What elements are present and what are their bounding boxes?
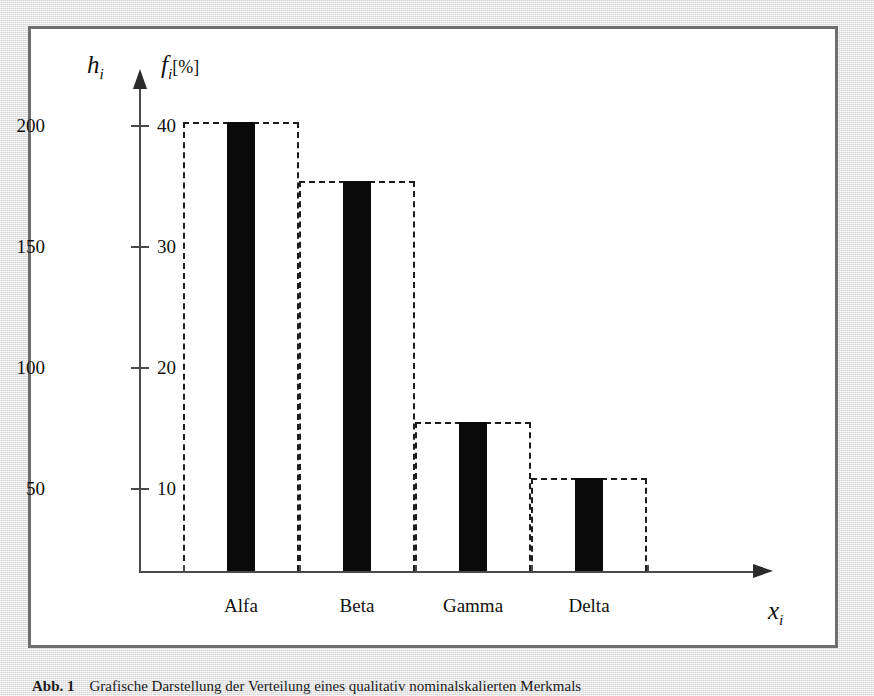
tick-label-left-50: 50 [26, 479, 45, 498]
figure-caption: Abb. 1 Grafische Darstellung der Verteil… [32, 676, 852, 696]
tick-label-right-10: 10 [157, 479, 176, 498]
figure-caption-text: Grafische Darstellung der Verteilung ein… [90, 678, 582, 694]
tick-label-right-20: 20 [157, 358, 176, 377]
tick-label-left-150: 150 [17, 237, 46, 256]
bar-beta [343, 181, 371, 571]
category-label-gamma: Gamma [443, 595, 503, 617]
category-label-beta: Beta [340, 595, 375, 617]
x-tick-boundary-4 [531, 565, 533, 573]
y-axis-title-right: fi[%] [161, 51, 199, 83]
figure-caption-label: Abb. 1 [32, 678, 75, 694]
tick-mark-100-20 [131, 367, 149, 369]
tick-mark-150-30 [131, 246, 149, 248]
figure-frame: hi fi[%] xi 200 40 150 30 100 20 50 10 [28, 26, 838, 648]
tick-label-right-40: 40 [157, 116, 176, 135]
y-axis-title-right-unit: [%] [172, 57, 199, 77]
x-axis-title-symbol: x [768, 597, 779, 624]
x-tick-boundary-5 [647, 565, 649, 573]
bar-delta [575, 478, 603, 571]
y-axis-title-left-symbol: h [87, 51, 100, 78]
x-tick-boundary-3 [415, 565, 417, 573]
bar-alfa [227, 122, 255, 571]
tick-label-left-100: 100 [17, 358, 46, 377]
y-axis-arrow-icon [133, 69, 147, 89]
y-axis-title-left: hi [87, 51, 104, 83]
plot-area: hi fi[%] xi 200 40 150 30 100 20 50 10 [31, 29, 835, 645]
x-axis-arrow-icon [753, 564, 773, 578]
tick-label-right-30: 30 [157, 237, 176, 256]
category-label-delta: Delta [568, 595, 609, 617]
bar-gamma [459, 422, 487, 571]
tick-label-left-200: 200 [17, 116, 46, 135]
x-axis-line [139, 571, 757, 573]
x-axis-title-subscript: i [779, 611, 783, 628]
x-tick-boundary-1 [183, 565, 185, 573]
tick-mark-50-10 [131, 488, 149, 490]
x-tick-boundary-2 [299, 565, 301, 573]
y-axis-title-left-subscript: i [100, 65, 104, 82]
y-axis-title-right-symbol: f [161, 51, 168, 78]
tick-mark-200-40 [131, 125, 149, 127]
x-axis-title: xi [768, 597, 783, 629]
y-axis-line [139, 87, 141, 573]
category-label-alfa: Alfa [224, 595, 258, 617]
